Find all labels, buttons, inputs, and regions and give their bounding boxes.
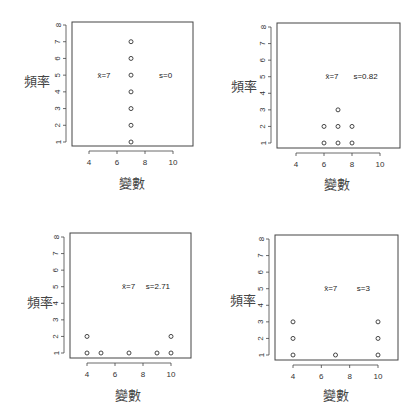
y-tick-label: 1 bbox=[259, 140, 268, 145]
y-tick-label: 4 bbox=[259, 91, 268, 96]
y-axis: 12345678 bbox=[257, 236, 270, 357]
data-point-marker bbox=[129, 107, 133, 111]
data-points bbox=[291, 320, 380, 357]
x-tick-label: 4 bbox=[291, 372, 296, 381]
data-point-marker bbox=[129, 56, 133, 60]
data-point-marker bbox=[376, 336, 380, 340]
y-tick-label: 6 bbox=[259, 57, 268, 62]
x-tick-label: 10 bbox=[167, 370, 176, 379]
y-tick-label: 7 bbox=[257, 253, 266, 258]
x-tick-label: 6 bbox=[319, 372, 324, 381]
y-tick-label: 7 bbox=[54, 39, 63, 44]
x-tick-label: 10 bbox=[376, 160, 385, 169]
y-tick-label: 5 bbox=[257, 286, 266, 291]
x-tick-label: 8 bbox=[347, 372, 352, 381]
y-tick-label: 7 bbox=[259, 41, 268, 46]
x-tick-label: 10 bbox=[169, 158, 178, 167]
data-point-marker bbox=[129, 123, 133, 127]
std-dev-annotation: s=0 bbox=[159, 71, 173, 80]
mean-annotation: x̄=7 bbox=[122, 282, 136, 291]
x-axis: 46810 bbox=[87, 151, 178, 167]
y-tick-label: 8 bbox=[257, 236, 266, 241]
x-tick-label: 4 bbox=[85, 370, 90, 379]
y-tick-label: 5 bbox=[52, 284, 61, 289]
std-dev-annotation: s=2.71 bbox=[146, 282, 171, 291]
x-axis-title: 變數 bbox=[323, 388, 349, 403]
x-tick-label: 8 bbox=[350, 160, 355, 169]
data-point-marker bbox=[129, 40, 133, 44]
mean-annotation: x̄=7 bbox=[97, 71, 111, 80]
data-point-marker bbox=[291, 336, 295, 340]
data-points bbox=[85, 334, 173, 355]
y-tick-label: 5 bbox=[259, 74, 268, 79]
data-point-marker bbox=[85, 334, 89, 338]
x-axis: 46810 bbox=[291, 365, 383, 381]
panel-top-right: 1234567846810頻率變數x̄=7s=0.82 bbox=[231, 23, 400, 192]
data-point-marker bbox=[336, 108, 340, 112]
y-tick-label: 3 bbox=[54, 106, 63, 111]
y-tick-label: 3 bbox=[259, 107, 268, 112]
data-point-marker bbox=[334, 353, 338, 357]
data-point-marker bbox=[85, 351, 89, 355]
y-tick-label: 1 bbox=[257, 352, 266, 357]
x-tick-label: 4 bbox=[294, 160, 299, 169]
x-tick-label: 6 bbox=[115, 158, 120, 167]
panel-bottom-right: 1234567846810頻率變數x̄=7s=3 bbox=[230, 235, 398, 403]
y-tick-label: 4 bbox=[54, 89, 63, 94]
y-tick-label: 6 bbox=[54, 56, 63, 61]
data-point-marker bbox=[350, 141, 354, 145]
data-point-marker bbox=[376, 320, 380, 324]
y-tick-label: 2 bbox=[259, 124, 268, 129]
y-tick-label: 6 bbox=[257, 269, 266, 274]
x-axis-title: 變數 bbox=[115, 388, 141, 403]
y-tick-label: 1 bbox=[54, 139, 63, 144]
data-point-marker bbox=[291, 353, 295, 357]
panel-bottom-left: 1234567846810頻率變數x̄=7s=2.71 bbox=[27, 233, 191, 403]
data-point-marker bbox=[99, 351, 103, 355]
data-point-marker bbox=[155, 351, 159, 355]
x-tick-label: 6 bbox=[322, 160, 327, 169]
x-tick-label: 6 bbox=[113, 370, 118, 379]
x-axis: 46810 bbox=[294, 153, 385, 169]
mean-annotation: x̄=7 bbox=[324, 284, 338, 293]
data-point-marker bbox=[169, 334, 173, 338]
x-axis-title: 變數 bbox=[119, 176, 145, 191]
y-axis: 12345678 bbox=[54, 22, 67, 144]
std-dev-annotation: s=3 bbox=[357, 284, 371, 293]
data-point-marker bbox=[350, 124, 354, 128]
y-tick-label: 7 bbox=[52, 251, 61, 256]
plot-area-frame bbox=[70, 233, 191, 358]
y-axis-title: 頻率 bbox=[27, 295, 53, 310]
y-tick-label: 8 bbox=[52, 234, 61, 239]
x-tick-label: 8 bbox=[141, 370, 146, 379]
y-axis: 12345678 bbox=[52, 234, 65, 355]
x-axis-title: 變數 bbox=[324, 177, 350, 192]
data-point-marker bbox=[322, 124, 326, 128]
data-point-marker bbox=[376, 353, 380, 357]
y-tick-label: 5 bbox=[54, 72, 63, 77]
y-tick-label: 8 bbox=[54, 22, 63, 27]
x-tick-label: 10 bbox=[374, 372, 383, 381]
data-point-marker bbox=[336, 124, 340, 128]
plot-area-frame bbox=[277, 23, 400, 148]
y-tick-label: 8 bbox=[259, 24, 268, 29]
x-tick-label: 4 bbox=[87, 158, 92, 167]
chart-canvas: 1234567846810頻率變數x̄=7s=0 1234567846810頻率… bbox=[0, 0, 419, 420]
y-tick-label: 3 bbox=[52, 317, 61, 322]
y-axis: 12345678 bbox=[259, 24, 272, 145]
data-point-marker bbox=[322, 141, 326, 145]
y-tick-label: 2 bbox=[52, 334, 61, 339]
y-tick-label: 4 bbox=[257, 303, 266, 308]
y-tick-label: 2 bbox=[257, 336, 266, 341]
y-axis-title: 頻率 bbox=[230, 293, 256, 308]
data-point-marker bbox=[336, 141, 340, 145]
data-point-marker bbox=[291, 320, 295, 324]
mean-annotation: x̄=7 bbox=[325, 72, 339, 81]
x-axis: 46810 bbox=[85, 363, 176, 379]
data-point-marker bbox=[129, 90, 133, 94]
data-points bbox=[322, 108, 354, 145]
y-tick-label: 2 bbox=[54, 123, 63, 128]
std-dev-annotation: s=0.82 bbox=[353, 72, 378, 81]
panel-top-left: 1234567846810頻率變數x̄=7s=0 bbox=[24, 22, 193, 191]
y-axis-title: 頻率 bbox=[24, 74, 50, 89]
